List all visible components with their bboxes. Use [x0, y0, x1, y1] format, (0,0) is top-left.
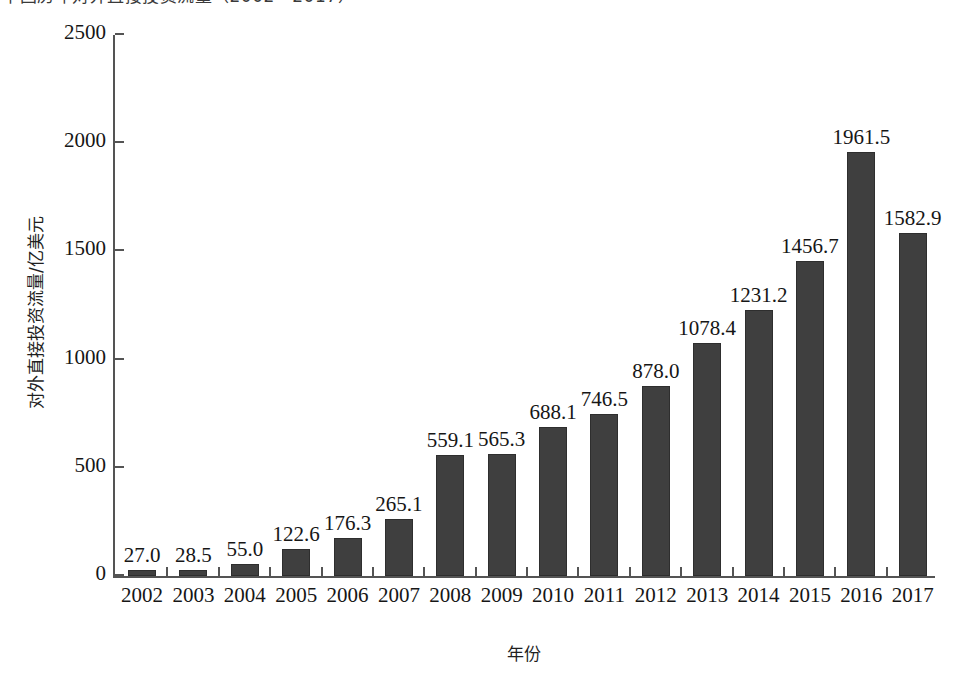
bar-value-label: 122.6: [273, 524, 320, 545]
y-axis-tick: 1000: [115, 358, 124, 360]
x-axis-category-label: 2009: [481, 585, 523, 606]
x-axis-tick: [732, 567, 734, 576]
bar-2017: 1582.92017: [899, 233, 927, 576]
bar-2004: 55.02004: [231, 564, 259, 576]
y-axis-tick: 0: [115, 574, 124, 576]
bar-value-label: 55.0: [226, 539, 263, 560]
bar-value-label: 559.1: [427, 430, 474, 451]
x-axis-category-label: 2007: [378, 585, 420, 606]
bar-value-label: 878.0: [632, 361, 679, 382]
y-axis-tick-label: 0: [96, 563, 107, 584]
bar-2008: 559.12008: [436, 455, 464, 576]
bar-value-label: 1961.5: [832, 127, 890, 148]
x-axis-tick: [886, 567, 888, 576]
y-axis-tick-label: 500: [75, 455, 107, 476]
x-axis-tick: [166, 567, 168, 576]
y-axis-tick-label: 2000: [64, 130, 106, 151]
bar-2003: 28.52003: [179, 570, 207, 576]
bar-value-label: 1456.7: [781, 236, 839, 257]
bar-value-label: 746.5: [581, 389, 628, 410]
x-axis-category-label: 2006: [327, 585, 369, 606]
x-axis-category-label: 2002: [121, 585, 163, 606]
bar-2014: 1231.22014: [745, 310, 773, 576]
bar-2016: 1961.52016: [847, 152, 875, 576]
x-axis-tick: [372, 567, 374, 576]
x-axis-category-label: 2004: [224, 585, 266, 606]
x-axis-category-label: 2005: [275, 585, 317, 606]
x-axis-tick: [834, 567, 836, 576]
bar-value-label: 265.1: [375, 494, 422, 515]
x-axis-tick: [475, 567, 477, 576]
x-axis-tick: [526, 567, 528, 576]
bar-2015: 1456.72015: [796, 261, 824, 576]
bar-value-label: 565.3: [478, 429, 525, 450]
x-axis-category-label: 2003: [172, 585, 214, 606]
y-axis-tick: 2000: [115, 141, 124, 143]
bar-value-label: 1231.2: [730, 285, 788, 306]
x-axis-category-label: 2017: [892, 585, 934, 606]
bar-chart-figure: 对外直接投资流量/亿美元 05001000150020002500 27.020…: [0, 0, 958, 678]
x-axis-category-label: 2010: [532, 585, 574, 606]
bar-2012: 878.02012: [642, 386, 670, 576]
bar-2009: 565.32009: [488, 454, 516, 576]
x-axis-tick: [629, 567, 631, 576]
x-axis-category-label: 2012: [635, 585, 677, 606]
bar-value-label: 688.1: [529, 402, 576, 423]
x-axis-category-label: 2015: [789, 585, 831, 606]
x-axis-tick: [680, 567, 682, 576]
x-axis-line: [113, 576, 935, 578]
bar-2011: 746.52011: [590, 414, 618, 576]
y-axis-tick: 1500: [115, 249, 124, 251]
bar-2010: 688.12010: [539, 427, 567, 576]
bar-value-label: 176.3: [324, 513, 371, 534]
bar-2007: 265.12007: [385, 519, 413, 576]
x-axis-category-label: 2011: [584, 585, 625, 606]
x-axis-category-label: 2014: [738, 585, 780, 606]
bar-value-label: 1078.4: [678, 318, 736, 339]
bar-value-label: 27.0: [124, 545, 161, 566]
bar-2005: 122.62005: [282, 549, 310, 576]
y-axis-title: 对外直接投资流量/亿美元: [22, 163, 47, 463]
bar-value-label: 1582.9: [884, 208, 942, 229]
x-axis-tick: [218, 567, 220, 576]
x-axis-category-label: 2008: [429, 585, 471, 606]
bar-2013: 1078.42013: [693, 343, 721, 576]
x-axis-tick: [783, 567, 785, 576]
bar-value-label: 28.5: [175, 545, 212, 566]
plot-area: 05001000150020002500 27.0200228.5200355.…: [113, 35, 935, 578]
y-axis-tick: 500: [115, 466, 124, 468]
y-axis-tick-label: 2500: [64, 22, 106, 43]
y-axis-line: [113, 35, 115, 578]
x-axis-category-label: 2016: [840, 585, 882, 606]
x-axis-tick: [269, 567, 271, 576]
bar-2002: 27.02002: [128, 570, 156, 576]
x-axis-category-label: 2013: [686, 585, 728, 606]
x-axis-tick: [577, 567, 579, 576]
x-axis-tick: [423, 567, 425, 576]
y-axis-tick-label: 1000: [64, 347, 106, 368]
x-axis-title: 年份: [113, 640, 935, 665]
x-axis-tick: [321, 567, 323, 576]
bar-2006: 176.32006: [334, 538, 362, 576]
y-axis-tick-label: 1500: [64, 238, 106, 259]
y-axis-tick: 2500: [115, 33, 124, 35]
